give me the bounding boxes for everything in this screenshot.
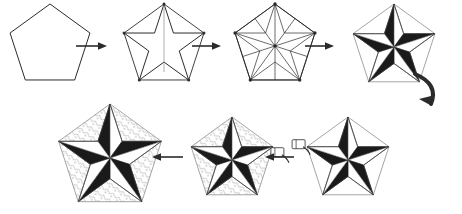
vertex-dot [187, 78, 190, 81]
vertex-dot [273, 2, 276, 5]
arrow-step1-to-step2 [75, 40, 109, 52]
figure-crease-pattern [217, 0, 333, 104]
vertex-dot [249, 78, 252, 81]
figure-shaded-star-hand-upper-left [289, 101, 407, 214]
vertex-dot [233, 31, 236, 34]
vertex-dot [163, 3, 166, 6]
vertex-dot [313, 31, 316, 34]
vertex-dot [138, 78, 141, 81]
vertex-dot [202, 32, 205, 35]
vertex-dot [273, 44, 276, 47]
arrow-step5-to-step6 [264, 151, 296, 163]
vertex-dot [123, 32, 126, 35]
vertex-dot [298, 78, 301, 81]
arrow-step3-to-step4 [304, 40, 336, 52]
arrow-step6-to-step7 [151, 151, 185, 163]
diagram-canvas [0, 0, 462, 214]
arrow-wrap-curved [401, 66, 447, 118]
arrow-step2-to-step3 [191, 40, 223, 52]
